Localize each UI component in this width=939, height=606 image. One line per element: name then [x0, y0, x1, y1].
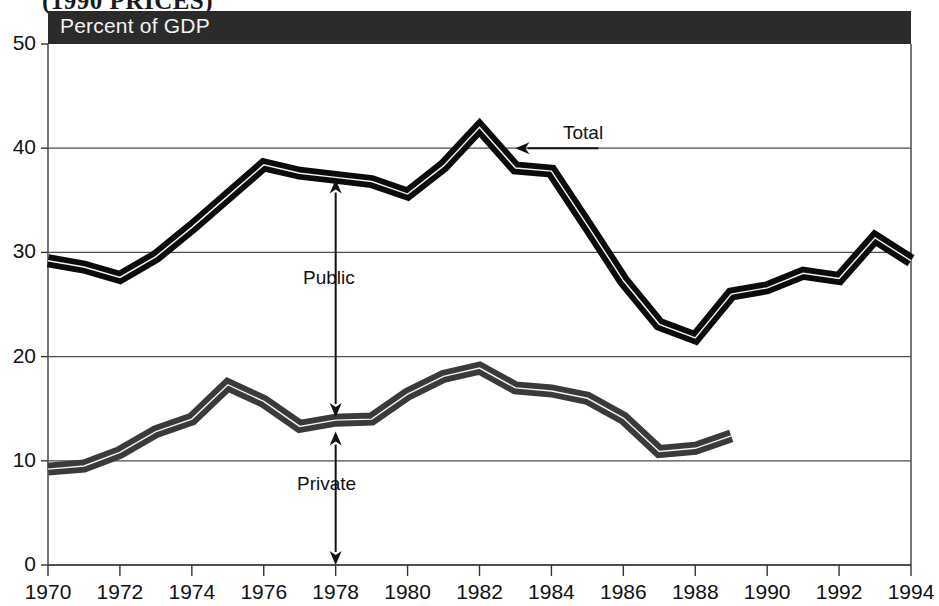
- x-tick-label: 1992: [809, 580, 869, 604]
- x-tick-label: 1986: [593, 580, 653, 604]
- x-tick-label: 1978: [306, 580, 366, 604]
- y-tick-label: 30: [0, 239, 36, 263]
- x-tick-label: 1988: [665, 580, 725, 604]
- annotation-private-label: Private: [297, 473, 356, 495]
- x-tick-label: 1980: [378, 580, 438, 604]
- y-tick-label: 0: [0, 552, 36, 576]
- x-tick-label: 1982: [450, 580, 510, 604]
- x-tick-label: 1976: [234, 580, 294, 604]
- x-tick-label: 1990: [737, 580, 797, 604]
- annotation-public-label: Public: [303, 267, 355, 289]
- y-tick-label: 10: [0, 448, 36, 472]
- y-tick-label: 50: [0, 31, 36, 55]
- x-tick-label: 1972: [90, 580, 150, 604]
- chart-gridlines: [48, 148, 911, 565]
- y-tick-label: 20: [0, 344, 36, 368]
- x-tick-label: 1974: [162, 580, 222, 604]
- chart-series-layer: [48, 127, 911, 469]
- y-tick-label: 40: [0, 135, 36, 159]
- x-tick-label: 1984: [521, 580, 581, 604]
- x-tick-label: 1970: [18, 580, 78, 604]
- annotation-total-label: Total: [563, 122, 603, 144]
- chart-annotation-layer: [330, 142, 599, 565]
- x-tick-label: 1994: [881, 580, 939, 604]
